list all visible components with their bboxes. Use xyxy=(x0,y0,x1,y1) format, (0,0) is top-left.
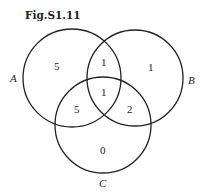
region-b-c-only: 2 xyxy=(127,103,133,115)
region-a-c-only: 5 xyxy=(74,103,80,115)
circle-b xyxy=(87,30,183,126)
set-label-c: C xyxy=(99,177,107,189)
set-label-b: B xyxy=(188,74,195,86)
region-c-only: 0 xyxy=(100,144,106,156)
region-a-b-only: 1 xyxy=(101,56,107,68)
venn-diagram: Fig.S1.11 A B C 5 1 1 1 5 2 0 xyxy=(0,0,204,192)
region-a-only: 5 xyxy=(54,60,60,72)
figure-title: Fig.S1.11 xyxy=(25,9,81,21)
circle-a xyxy=(23,29,121,127)
set-label-a: A xyxy=(9,72,17,84)
region-b-only: 1 xyxy=(148,61,154,73)
region-a-b-c: 1 xyxy=(101,86,107,98)
